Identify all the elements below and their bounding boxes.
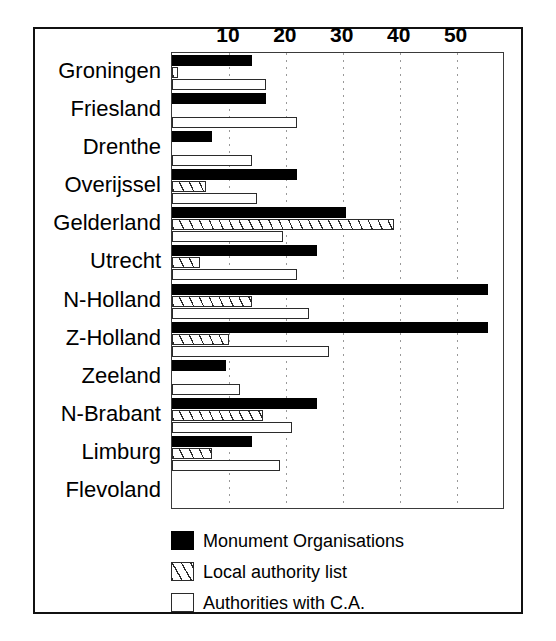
y-axis-category-labels: GroningenFrieslandDrentheOverijsselGelde… (0, 52, 166, 509)
bar-diagonal-hatch-gelderland (172, 219, 394, 230)
category-label: Limburg (82, 440, 161, 464)
bar-solid-black-zeeland (172, 360, 226, 371)
x-gridline (343, 53, 344, 508)
bar-diagonal-hatch-utrecht (172, 257, 200, 268)
category-label: Utrecht (90, 249, 161, 273)
x-gridline (400, 53, 401, 508)
bar-dotted-n-brabant (172, 422, 292, 433)
legend-item: Local authority list (171, 556, 491, 587)
bar-solid-black-z-holland (172, 322, 488, 333)
category-label: Z-Holland (66, 326, 161, 350)
category-label: N-Brabant (61, 402, 161, 426)
category-label: Gelderland (53, 211, 161, 235)
bar-dotted-limburg (172, 460, 280, 471)
bar-diagonal-hatch-n-holland (172, 296, 252, 307)
bar-dotted-groningen (172, 79, 266, 90)
bar-diagonal-hatch-groningen (172, 67, 178, 78)
x-axis-tick-label: 10 (216, 22, 239, 48)
bar-dotted-overijssel (172, 193, 257, 204)
bar-dotted-gelderland (172, 231, 283, 242)
category-label: Friesland (71, 97, 161, 121)
chart-figure: 1020304050 GroningenFrieslandDrentheOver… (0, 0, 556, 641)
bar-solid-black-utrecht (172, 245, 317, 256)
bar-solid-black-gelderland (172, 207, 346, 218)
bar-solid-black-n-holland (172, 284, 488, 295)
legend-item: Authorities with C.A. (171, 587, 491, 618)
category-label: N-Holland (63, 288, 161, 312)
bar-solid-black-drenthe (172, 131, 212, 142)
bar-solid-black-limburg (172, 436, 252, 447)
bar-solid-black-overijssel (172, 169, 297, 180)
dotted-swatch (171, 593, 194, 612)
bar-dotted-friesland (172, 117, 297, 128)
x-axis-tick-labels: 1020304050 (0, 22, 556, 48)
bar-dotted-n-holland (172, 308, 309, 319)
x-axis-tick-label: 20 (273, 22, 296, 48)
diagonal-hatch-swatch (171, 562, 194, 581)
bar-dotted-z-holland (172, 346, 329, 357)
x-gridline (457, 53, 458, 508)
bar-dotted-zeeland (172, 384, 240, 395)
bar-dotted-drenthe (172, 155, 252, 166)
plot-area (171, 52, 504, 509)
bar-solid-black-n-brabant (172, 398, 317, 409)
bar-diagonal-hatch-z-holland (172, 334, 229, 345)
solid-black-swatch (171, 531, 194, 550)
x-axis-tick-label: 30 (330, 22, 353, 48)
category-label: Zeeland (81, 364, 161, 388)
category-label: Overijssel (64, 173, 161, 197)
category-label: Drenthe (83, 135, 161, 159)
legend-label: Local authority list (203, 562, 347, 582)
bar-diagonal-hatch-overijssel (172, 181, 206, 192)
bar-diagonal-hatch-n-brabant (172, 410, 263, 421)
chart-legend: Monument OrganisationsLocal authority li… (171, 525, 491, 618)
bar-solid-black-friesland (172, 93, 266, 104)
category-label: Groningen (58, 59, 161, 83)
category-label: Flevoland (66, 478, 161, 502)
x-axis-tick-label: 50 (444, 22, 467, 48)
bar-dotted-utrecht (172, 269, 297, 280)
bar-diagonal-hatch-limburg (172, 448, 212, 459)
legend-label: Monument Organisations (203, 531, 404, 551)
x-axis-tick-label: 40 (387, 22, 410, 48)
legend-label: Authorities with C.A. (203, 593, 365, 613)
legend-item: Monument Organisations (171, 525, 491, 556)
bar-solid-black-groningen (172, 55, 252, 66)
